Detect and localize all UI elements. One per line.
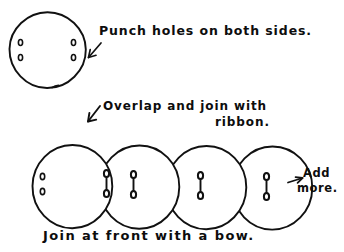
circle-row-item-1	[32, 145, 112, 228]
arrow-down-left-icon	[89, 43, 102, 58]
hole-right-upper	[71, 40, 75, 46]
label-join-front: Join at front with a bow.	[43, 229, 255, 244]
sketch-diagram: Punch holes on both sides. Overlap and j…	[0, 0, 344, 252]
label-punch-holes: Punch holes on both sides.	[99, 24, 312, 38]
punched-circle-top	[9, 12, 85, 88]
circle-outline	[9, 12, 85, 88]
arrow-down-left-icon-2	[88, 106, 100, 122]
label-overlap-join-line2: ribbon.	[215, 116, 270, 130]
hole-right-lower	[71, 55, 75, 61]
overlapping-circle-row	[32, 145, 312, 230]
circle-outline	[32, 145, 112, 228]
hole-left-upper	[18, 40, 22, 46]
label-add-more-line2: more.	[297, 182, 338, 195]
label-overlap-join-line1: Overlap and join with	[103, 100, 267, 114]
label-add-more-line1: Add	[303, 167, 330, 180]
hole-left-lower	[18, 55, 22, 61]
